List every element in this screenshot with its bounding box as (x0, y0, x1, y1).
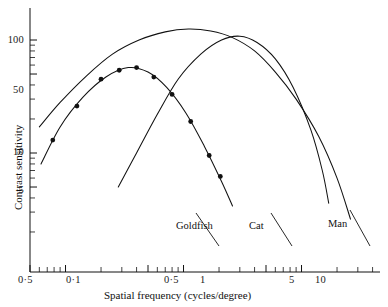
x-tick-label-0-1: 0·1 (66, 274, 81, 285)
data-point-goldfish (218, 174, 223, 179)
y-tick-marks (30, 40, 37, 232)
x-tick-label-0-05: 0·5 (18, 274, 33, 285)
curve-man (39, 29, 350, 219)
leader-line-cat (271, 213, 292, 246)
data-point-goldfish (134, 65, 139, 70)
data-point-goldfish (75, 104, 80, 109)
x-tick-marks (30, 265, 373, 272)
axes-group (30, 8, 380, 272)
contrast-sensitivity-figure: 100 50 10 5 0·5 0·1 0·5 1 5 10 Spatial f… (0, 0, 388, 307)
curves-group (39, 29, 350, 219)
y-tick-label-50: 50 (0, 84, 24, 95)
y-tick-label-100: 100 (0, 34, 24, 45)
curve-cat (118, 36, 328, 203)
x-axis-title: Spatial frequency (cycles/degree) (104, 289, 251, 301)
x-tick-label-10: 10 (315, 274, 326, 285)
curve-label-man: Man (328, 218, 347, 229)
data-point-goldfish (170, 92, 175, 97)
data-point-goldfish (99, 77, 104, 82)
x-tick-label-0-5: 0·5 (164, 274, 179, 285)
curve-goldfish (41, 67, 232, 206)
curve-label-cat: Cat (249, 220, 264, 231)
x-tick-label-1: 1 (200, 274, 205, 285)
data-point-goldfish (151, 75, 156, 80)
plot-canvas (0, 0, 388, 307)
data-point-goldfish (50, 138, 55, 143)
data-point-markers (50, 65, 222, 179)
x-tick-label-5: 5 (289, 274, 294, 285)
y-axis-title: Contrast sensitivity (12, 125, 24, 210)
curve-label-goldfish: Goldfish (176, 220, 213, 231)
data-point-goldfish (207, 153, 212, 158)
leader-line-man (350, 210, 370, 246)
data-point-goldfish (117, 68, 122, 73)
data-point-goldfish (188, 119, 193, 124)
